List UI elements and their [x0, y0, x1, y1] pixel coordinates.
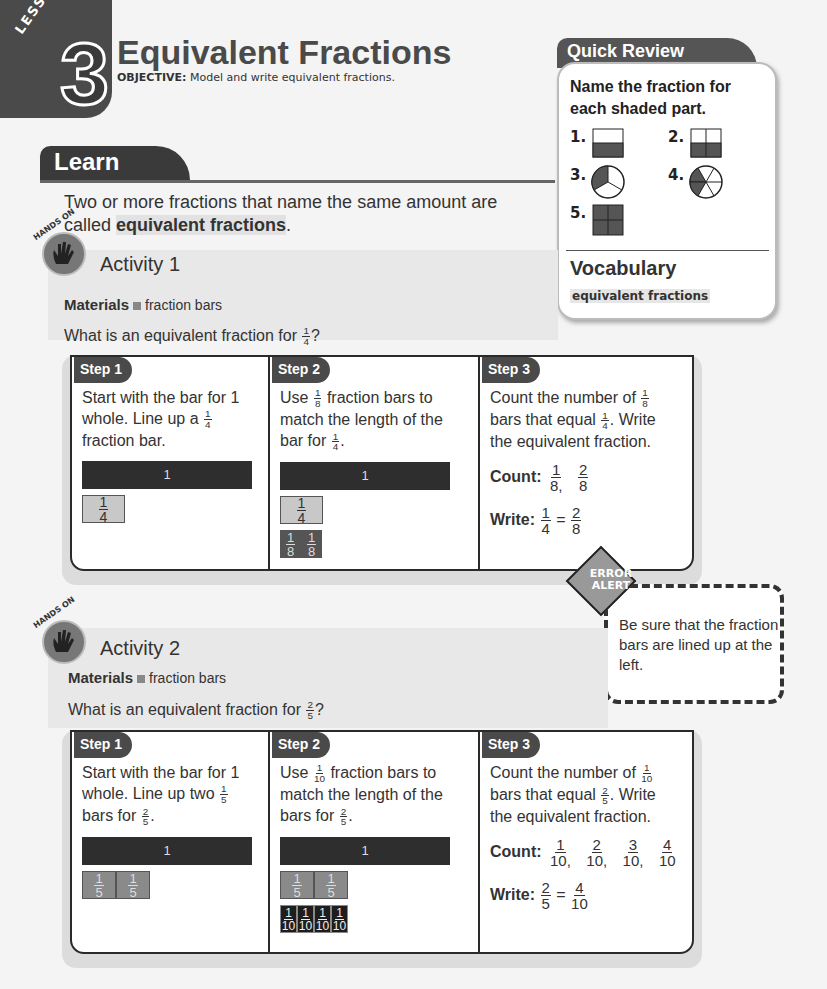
step-label: Step 1 — [74, 732, 132, 758]
text: bars that equal — [490, 411, 596, 428]
bar-row: 14 — [280, 496, 468, 524]
numerator: 1 — [555, 837, 565, 853]
whole-bar: 1 — [82, 461, 252, 489]
qr-item-5-number: 5. — [570, 204, 586, 222]
denominator: 10 — [659, 853, 676, 868]
fraction: 310, — [623, 837, 644, 868]
numerator: 1 — [301, 907, 310, 920]
step-label: Step 2 — [272, 732, 330, 758]
fifth-bar: 15 — [314, 871, 348, 899]
text: Use — [280, 389, 308, 406]
text: Start with the bar for 1 whole. Line up … — [82, 764, 239, 802]
fraction: 28 — [571, 505, 581, 536]
denominator: 5 — [341, 817, 347, 827]
fraction: 18, — [550, 462, 563, 493]
qr-item-4-number: 4. — [668, 166, 684, 184]
circle-thirds-icon — [590, 164, 626, 200]
equals-sign: = — [556, 511, 565, 528]
fraction: 410 — [571, 880, 588, 911]
vocab-highlight: equivalent fractions — [116, 215, 286, 235]
denominator: 8 — [579, 478, 587, 493]
question-text: What is an equivalent fraction for — [68, 701, 305, 718]
text: Count the number of — [490, 764, 636, 781]
denominator: 5 — [293, 886, 300, 899]
fifth-bar: 15 — [116, 871, 150, 899]
write-label: Write: — [490, 886, 535, 903]
denominator: 4 — [298, 511, 306, 525]
fraction: 110 — [641, 763, 652, 784]
denominator: 5 — [143, 817, 149, 827]
denominator: 10 — [571, 896, 588, 911]
denominator: 10 — [314, 774, 325, 784]
fraction: 25 — [340, 807, 348, 828]
fraction: 14 — [601, 411, 609, 432]
vocabulary-term: equivalent fractions — [570, 289, 710, 303]
step-3: Step 3 Count the number of 110 bars that… — [480, 732, 692, 952]
objective-label: OBJECTIVE: — [117, 71, 186, 84]
fraction: 110, — [550, 837, 571, 868]
step-1: Step 1 Start with the bar for 1 whole. L… — [72, 732, 270, 952]
denominator: 4 — [602, 421, 608, 431]
hands-on-icon — [42, 232, 86, 276]
fraction: 18 — [307, 531, 316, 558]
step-text: Use 110 fraction bars to match the lengt… — [280, 762, 468, 827]
step-3: Step 3 Count the number of 18 bars that … — [480, 357, 692, 569]
lesson-number: 3 — [60, 30, 109, 118]
fraction: 15 — [326, 872, 335, 899]
fraction: 14 — [541, 505, 551, 536]
intro-after: . — [286, 215, 291, 235]
denominator: 4 — [100, 510, 108, 524]
activity-2-title: Activity 2 — [100, 637, 180, 660]
numerator: 1 — [284, 907, 293, 920]
denominator: 5 — [221, 795, 227, 805]
write-row: Write: 25 = 410 — [490, 880, 682, 911]
numerator: 1 — [335, 907, 344, 920]
qr-item-3-number: 3. — [570, 166, 586, 184]
activity-1-title: Activity 1 — [100, 253, 180, 276]
question-end: ? — [315, 701, 324, 718]
step-text: Count the number of 18 bars that equal 1… — [490, 387, 682, 452]
steps-row: Step 1 Start with the bar for 1 whole. L… — [70, 355, 694, 571]
fraction: 15 — [220, 784, 228, 805]
denominator: 4 — [542, 521, 550, 536]
denominator: 8 — [642, 399, 648, 409]
text: bars that equal — [490, 786, 596, 803]
fraction: 25 — [601, 786, 609, 807]
denominator: 10, — [586, 853, 607, 868]
denominator: 10 — [316, 920, 329, 932]
fraction: 210, — [586, 837, 607, 868]
denominator: 5 — [307, 711, 313, 721]
fraction: 14 — [204, 409, 212, 430]
denominator: 4 — [333, 442, 339, 452]
step-label: Step 2 — [272, 357, 330, 383]
bar-row: 15 15 — [82, 871, 258, 899]
fraction: 14 — [297, 496, 307, 525]
numerator: 1 — [99, 495, 109, 510]
numerator: 1 — [551, 462, 561, 478]
step-label: Step 3 — [482, 732, 540, 758]
step-1: Step 1 Start with the bar for 1 whole. L… — [72, 357, 270, 569]
step-text: Start with the bar for 1 whole. Line up … — [82, 387, 258, 451]
learn-tab: Learn — [40, 146, 190, 180]
text: . — [150, 807, 154, 824]
bar-row: 14 — [82, 495, 258, 523]
error-alert-badge: ERRORALERT — [576, 568, 646, 592]
eighth-bar: 18 — [280, 530, 301, 558]
step-label: Step 3 — [482, 357, 540, 383]
count-row: Count: 18, 28 — [490, 462, 682, 493]
numerator: 2 — [541, 880, 551, 896]
rectangle-halves-icon — [592, 128, 624, 158]
bullet-icon — [137, 675, 145, 683]
fraction: 14 — [99, 495, 109, 524]
numerator: 1 — [318, 907, 327, 920]
denominator: 5 — [327, 886, 334, 899]
tenth-bar: 110 — [280, 905, 297, 933]
tenth-bar: 110 — [331, 905, 348, 933]
step-text: Use 18 fraction bars to match the length… — [280, 387, 468, 452]
numerator: 3 — [628, 837, 638, 853]
quick-review-prompt: Name the fraction for each shaded part. — [570, 76, 770, 120]
activity-1-materials: Materialsfraction bars — [64, 296, 222, 313]
tenth-bar: 110 — [314, 905, 331, 933]
numerator: 2 — [578, 462, 588, 478]
numerator: 1 — [297, 496, 307, 511]
